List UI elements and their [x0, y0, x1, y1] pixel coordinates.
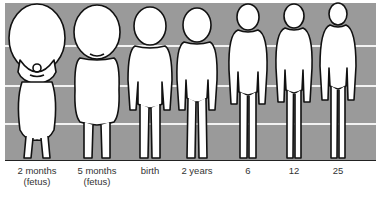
stage-age: 2 years — [181, 165, 212, 176]
stage-age: 6 — [245, 165, 250, 176]
stage-labels: 2 months(fetus) 5 months(fetus) birth 2 … — [0, 165, 381, 197]
stage-note: (fetus) — [77, 176, 116, 187]
stage-age: 5 months — [77, 165, 116, 176]
stage-label-2-months: 2 months(fetus) — [17, 165, 56, 187]
figure-5-months-fetus — [74, 5, 120, 158]
stage-label-12: 12 — [289, 165, 300, 176]
figure-25-years — [320, 3, 356, 158]
figure-birth — [128, 7, 172, 158]
figure-12-years — [276, 4, 312, 158]
stage-label-birth: birth — [141, 165, 159, 176]
figure-6-years — [229, 4, 267, 158]
stage-note: (fetus) — [17, 176, 56, 187]
stage-age: 12 — [289, 165, 300, 176]
figure-2-months-fetus — [9, 4, 65, 158]
stage-label-2-years: 2 years — [181, 165, 212, 176]
stage-label-5-months: 5 months(fetus) — [77, 165, 116, 187]
stage-age: 2 months — [17, 165, 56, 176]
stage-age: 25 — [333, 165, 344, 176]
body-proportion-figures — [0, 0, 381, 162]
figure-2-years — [177, 8, 217, 158]
stage-age: birth — [141, 165, 159, 176]
stage-label-25: 25 — [333, 165, 344, 176]
stage-label-6: 6 — [245, 165, 250, 176]
